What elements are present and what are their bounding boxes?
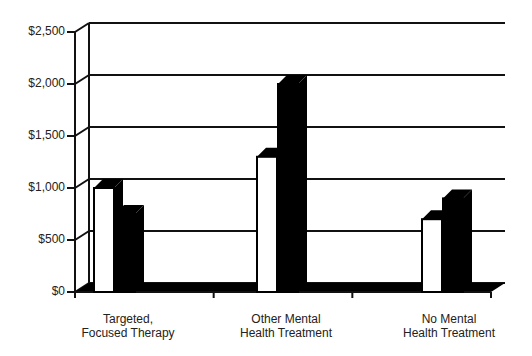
bar-side	[463, 189, 472, 292]
y-tick-label: $2,500	[28, 24, 65, 38]
bar-white	[94, 188, 114, 292]
side-gridline	[75, 23, 89, 32]
bar-black	[443, 198, 463, 292]
x-category-label: Targeted,Focused Therapy	[53, 312, 203, 340]
side-gridline	[75, 75, 89, 84]
bar-black	[115, 214, 135, 292]
side-gridline	[75, 231, 89, 240]
x-category-label: Other MentalHealth Treatment	[211, 312, 361, 340]
bar-chart	[0, 0, 532, 356]
bar-black	[278, 84, 298, 292]
x-category-label: No MentalHealth Treatment	[374, 312, 524, 340]
y-tick-label: $0	[52, 284, 65, 298]
bar-side	[135, 205, 144, 292]
y-tick-label: $2,000	[28, 76, 65, 90]
bar-white	[257, 157, 277, 292]
y-tick-label: $1,000	[28, 180, 65, 194]
side-gridline	[75, 179, 89, 188]
y-tick-label: $500	[38, 232, 65, 246]
bar-side	[298, 75, 307, 292]
bar-white	[422, 219, 442, 292]
side-gridline	[75, 127, 89, 136]
y-tick-label: $1,500	[28, 128, 65, 142]
